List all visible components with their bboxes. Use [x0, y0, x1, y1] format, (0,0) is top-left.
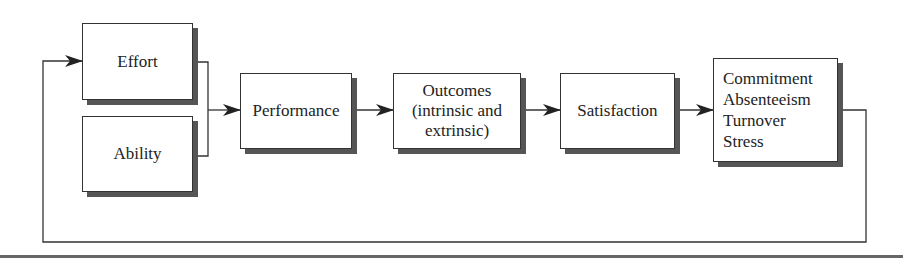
results-box: Commitment Absenteeism Turnover Stress: [713, 58, 838, 162]
effort-connector: [193, 62, 208, 110]
ability-connector: [193, 110, 208, 156]
bottom-divider: [0, 255, 903, 258]
results-line-commitment: Commitment: [723, 68, 813, 89]
ability-box: Ability: [82, 116, 193, 192]
results-line-absenteeism: Absenteeism: [723, 89, 813, 110]
satisfaction-label: Satisfaction: [577, 101, 657, 121]
motivation-model-diagram: Effort Ability Performance Outcomes (int…: [0, 0, 903, 259]
outcomes-line-3: extrinsic): [412, 121, 502, 141]
outcomes-line-1: Outcomes: [412, 81, 502, 101]
ability-label: Ability: [113, 144, 161, 164]
results-line-stress: Stress: [723, 131, 813, 152]
outcomes-line-2: (intrinsic and: [412, 101, 502, 121]
effort-label: Effort: [117, 52, 157, 72]
satisfaction-box: Satisfaction: [560, 73, 675, 149]
effort-box: Effort: [82, 23, 193, 100]
results-line-turnover: Turnover: [723, 110, 813, 131]
outcomes-box: Outcomes (intrinsic and extrinsic): [393, 73, 521, 149]
performance-label: Performance: [253, 101, 340, 121]
performance-box: Performance: [240, 73, 352, 149]
